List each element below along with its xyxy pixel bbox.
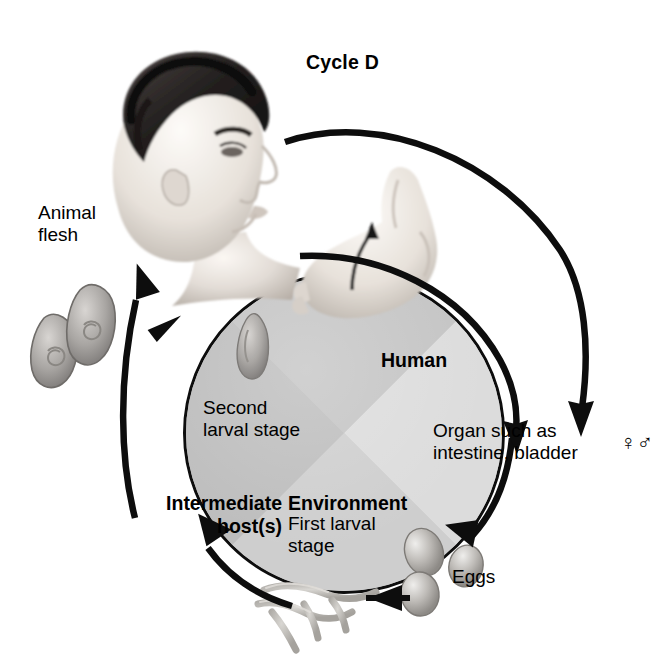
label-intermediate-hosts: Intermediate host(s) (122, 492, 282, 537)
first-stage-larvae (258, 586, 376, 650)
label-eggs: Eggs (452, 566, 495, 588)
label-organ: Organ such as intestine, bladder (433, 420, 578, 464)
gender-symbols-icon: ♀♂ (620, 430, 653, 456)
label-first-larval-stage: First larval stage (288, 513, 376, 557)
label-human: Human (381, 349, 447, 372)
intermediate-to-animal-flesh-arc (123, 300, 136, 518)
human-head-photo (113, 52, 300, 306)
label-second-larval-stage: Second larval stage (203, 397, 300, 441)
label-environment: Environment (288, 492, 407, 515)
figure-title: Cycle D (306, 51, 379, 74)
encysted-larvae (31, 285, 115, 388)
label-animal-flesh: Animal flesh (38, 202, 96, 246)
figure-canvas: Cycle D Animal flesh Human Organ such as… (0, 0, 667, 667)
